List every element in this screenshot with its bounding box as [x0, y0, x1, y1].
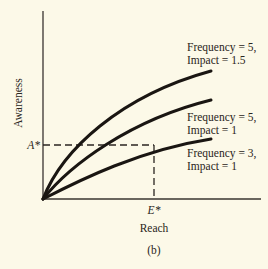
figure-caption: (b) [147, 244, 161, 257]
curve-high-label-line2: Impact = 1.5 [187, 54, 246, 67]
awareness-reach-chart: Awareness A* E* Reach (b) Frequency = 5,… [0, 0, 268, 269]
a-star-label: A* [26, 139, 40, 151]
curve-frequency-5-impact-1 [43, 100, 211, 199]
y-axis-label: Awareness [12, 78, 24, 128]
e-star-label: E* [147, 204, 161, 216]
curve-low-label-line1: Frequency = 3, [187, 147, 257, 160]
curve-mid-label-line2: Impact = 1 [187, 124, 237, 137]
curve-frequency-3-impact-1 [43, 139, 211, 199]
curve-high-label-line1: Frequency = 5, [187, 41, 257, 54]
curve-frequency-5-impact-1.5 [43, 71, 211, 199]
curve-mid-label-line1: Frequency = 5, [187, 111, 257, 124]
x-axis-label: Reach [140, 222, 169, 234]
curve-low-label-line2: Impact = 1 [187, 160, 237, 173]
